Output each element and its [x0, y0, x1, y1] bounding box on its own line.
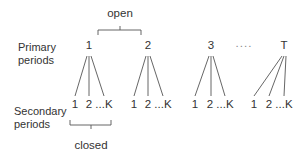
tree-t-lines	[254, 56, 286, 96]
tree-1-lines	[75, 56, 104, 96]
tree-3-lines	[195, 56, 225, 96]
tree-2-lines	[134, 56, 163, 96]
closed-brace	[70, 120, 111, 129]
diagram-lines	[0, 0, 306, 164]
open-brace	[98, 26, 141, 35]
